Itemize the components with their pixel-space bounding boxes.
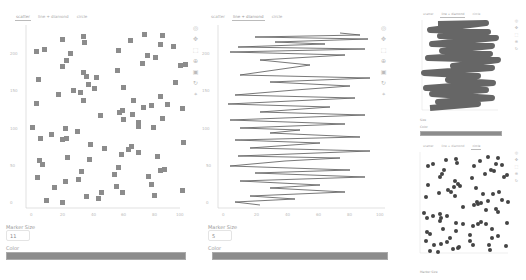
- box-zoom-icon[interactable]: ⬚: [514, 164, 519, 169]
- svg-text:100: 100: [10, 126, 18, 131]
- plot-toolbar: ◎ ✥ ⬚ ⊕ ▣ ↻ ⌖: [380, 24, 387, 97]
- color-picker[interactable]: [420, 131, 502, 136]
- svg-text:0: 0: [30, 212, 33, 217]
- color-picker[interactable]: [212, 252, 388, 260]
- bokeh-logo-icon: ◎: [514, 18, 519, 23]
- pan-icon[interactable]: ✥: [380, 35, 387, 42]
- reset-icon[interactable]: ↻: [514, 46, 519, 51]
- svg-text:60: 60: [121, 212, 127, 217]
- bokeh-logo-icon: ◎: [514, 150, 519, 155]
- size-label: Size: [420, 118, 426, 122]
- marker-size-input[interactable]: 5: [208, 230, 232, 241]
- box-zoom-icon[interactable]: ⬚: [514, 32, 519, 37]
- line-panel: scatter line + diamond circle 0501001502…: [200, 0, 410, 280]
- wheel-zoom-icon[interactable]: ⊕: [514, 39, 519, 44]
- plot-toolbar: ◎ ✥ ⬚ ⊕ ↻: [514, 18, 519, 51]
- svg-text:0: 0: [222, 212, 225, 217]
- svg-text:40: 40: [91, 212, 97, 217]
- svg-text:0: 0: [10, 200, 13, 205]
- color-label: Color: [420, 125, 428, 129]
- svg-text:100: 100: [202, 126, 210, 131]
- svg-text:150: 150: [202, 88, 210, 93]
- hover-icon[interactable]: ⌖: [380, 90, 387, 97]
- svg-text:200: 200: [10, 51, 18, 56]
- save-icon[interactable]: ▣: [380, 68, 387, 75]
- line-plot[interactable]: 050100150200 020406080100: [200, 20, 395, 220]
- x-axis: 020406080100: [222, 212, 384, 217]
- small-line-plot[interactable]: [418, 18, 513, 118]
- svg-text:0: 0: [206, 200, 209, 205]
- wheel-zoom-icon[interactable]: ⊕: [192, 57, 199, 64]
- svg-text:80: 80: [347, 212, 353, 217]
- svg-text:40: 40: [285, 212, 291, 217]
- svg-text:100: 100: [176, 212, 184, 217]
- y-axis: 050100150200: [10, 51, 18, 205]
- bokeh-logo-icon: ◎: [380, 24, 387, 31]
- color-label: Color: [208, 245, 221, 251]
- marker-size-label: Marker Size: [420, 270, 437, 274]
- reset-icon[interactable]: ↻: [514, 178, 519, 183]
- pan-icon[interactable]: ✥: [192, 35, 199, 42]
- circle-markers: [422, 155, 510, 254]
- circle-panel: scatter line + diamond circle: [418, 142, 526, 280]
- svg-text:50: 50: [206, 163, 212, 168]
- line-series: [228, 33, 370, 205]
- svg-text:150: 150: [10, 88, 18, 93]
- plot-toolbar: ◎ ✥ ⬚ ⊕ ↻: [514, 150, 519, 183]
- svg-text:60: 60: [316, 212, 322, 217]
- scatter-markers: [30, 32, 188, 205]
- reset-icon[interactable]: ↻: [192, 79, 199, 86]
- plot-toolbar: ◎ ✥ ⬚ ⊕ ▣ ↻ ⌖: [192, 24, 199, 97]
- svg-text:200: 200: [202, 51, 210, 56]
- reset-icon[interactable]: ↻: [380, 79, 387, 86]
- color-picker[interactable]: [6, 252, 186, 260]
- color-label: Color: [6, 245, 19, 251]
- save-icon[interactable]: ▣: [192, 68, 199, 75]
- small-line-panel: scatter line + diamond circle ◎ ✥ ⬚ ⊕ ↻ …: [418, 0, 526, 140]
- scatter-panel: scatter line + diamond circle 0501001502…: [0, 0, 205, 280]
- svg-text:80: 80: [152, 212, 158, 217]
- box-zoom-icon[interactable]: ⬚: [380, 46, 387, 53]
- svg-text:20: 20: [254, 212, 260, 217]
- scatter-plot[interactable]: 050100150200 020406080100: [0, 20, 195, 220]
- svg-text:20: 20: [60, 212, 66, 217]
- y-axis: 050100150200: [202, 51, 212, 205]
- wheel-zoom-icon[interactable]: ⊕: [514, 171, 519, 176]
- wheel-zoom-icon[interactable]: ⊕: [380, 57, 387, 64]
- bokeh-logo-icon: ◎: [192, 24, 199, 31]
- box-zoom-icon[interactable]: ⬚: [192, 46, 199, 53]
- marker-size-input[interactable]: 11: [6, 230, 30, 241]
- hover-icon[interactable]: ⌖: [192, 90, 199, 97]
- x-axis: 020406080100: [30, 212, 184, 217]
- pan-icon[interactable]: ✥: [514, 157, 519, 162]
- svg-text:50: 50: [10, 163, 16, 168]
- svg-text:100: 100: [376, 212, 384, 217]
- circle-plot[interactable]: [418, 150, 513, 260]
- pan-icon[interactable]: ✥: [514, 25, 519, 30]
